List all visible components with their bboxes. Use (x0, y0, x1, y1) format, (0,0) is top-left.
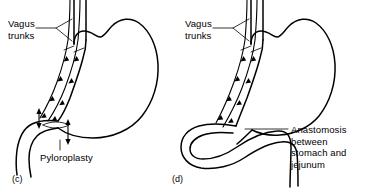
pyloroplasty-incision-c (43, 122, 69, 128)
vagus-trunks-leader-c (36, 19, 72, 41)
label-pyloroplasty-c: Pyloroplasty (40, 152, 93, 164)
vagus-trunks-d (216, 0, 261, 127)
panel-tag-c: (c) (12, 174, 23, 184)
stomach-c (58, 19, 158, 138)
vagus-trunks-leader-d (213, 19, 249, 41)
label-vagus-trunks-d: Vagus trunks (185, 18, 212, 41)
duodenum-c (16, 120, 58, 177)
panel-tag-d: (d) (172, 174, 183, 184)
jejunal-loop-d (181, 124, 298, 187)
label-anastomosis-d: Anastomosis between stomach and jejunum (291, 124, 347, 170)
figure-vagotomy-procedures: Vagus trunks Pyloroplasty Vagus trunks A… (0, 0, 384, 193)
label-vagus-trunks-c: Vagus trunks (8, 18, 35, 41)
